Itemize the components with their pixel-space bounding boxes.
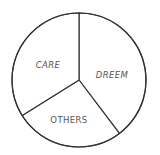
pie-chart: CARE DREEM OTHERS [0,0,160,155]
slice-label-others: OTHERS [50,115,87,125]
slice-label-dreem: DREEM [96,70,129,80]
slice-label-care: CARE [36,60,61,70]
